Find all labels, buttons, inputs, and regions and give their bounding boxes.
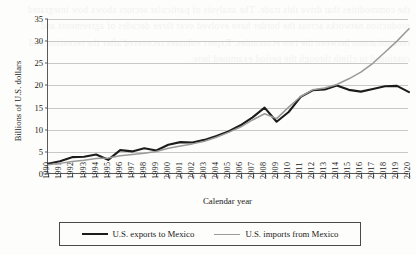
legend-item-imports: U.S. imports from Mexico [214, 229, 338, 239]
y-tick-label: 25 [34, 58, 43, 68]
y-tick-label: 35 [34, 14, 43, 24]
legend-swatch-imports [214, 234, 240, 235]
y-tick-label: 30 [34, 36, 43, 46]
series-line-imports [48, 29, 409, 165]
legend-item-exports: U.S. exports to Mexico [82, 229, 195, 239]
legend-label-imports: U.S. imports from Mexico [245, 229, 338, 239]
y-tick-label: 20 [34, 80, 43, 90]
y-tick-label: 15 [34, 103, 43, 113]
legend-label-exports: U.S. exports to Mexico [113, 229, 195, 239]
y-tick-label: 10 [34, 125, 43, 135]
x-axis-title: Calendar year [47, 196, 408, 206]
line-chart-figure: Billions of U.S. dollars 05101520253035 … [0, 0, 416, 255]
legend-swatch-exports [82, 233, 108, 235]
chart-legend: U.S. exports to Mexico U.S. imports from… [59, 222, 361, 246]
series-line-exports [48, 85, 409, 163]
plot-area: 05101520253035 1990199119921993199419951… [47, 19, 408, 174]
series-lines [48, 19, 409, 174]
y-axis-title: Billions of U.S. dollars [13, 21, 23, 181]
y-tick-label: 5 [39, 147, 43, 157]
